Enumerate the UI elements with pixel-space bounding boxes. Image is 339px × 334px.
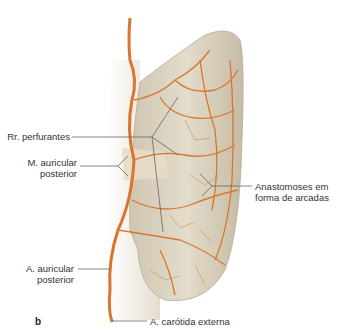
label-a-auricular-posterior: A. auricular posterior [0, 263, 74, 285]
label-line: forma de arcadas [255, 192, 329, 203]
panel-letter: b [35, 316, 41, 327]
posterior-auricular-muscle [122, 148, 168, 180]
label-rr-perfurantes: Rr. perfurantes [0, 131, 70, 142]
label-line: M. auricular [0, 157, 77, 168]
label-line: Anastomoses em [255, 181, 329, 192]
label-line: A. auricular [0, 263, 74, 274]
label-anastomoses: Anastomoses em forma de arcadas [255, 181, 329, 203]
label-line: posterior [0, 274, 74, 285]
label-a-carotida-externa: A. carótida externa [150, 316, 230, 327]
label-line: posterior [0, 168, 77, 179]
label-m-auricular-posterior: M. auricular posterior [0, 157, 77, 179]
